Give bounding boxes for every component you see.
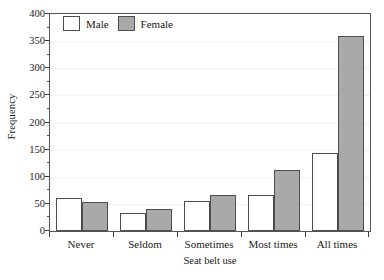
legend-label-female: Female	[141, 18, 173, 30]
bar-most-times-male	[248, 195, 274, 231]
x-axis-label-most-times: Most times	[248, 238, 297, 250]
gridline	[50, 41, 370, 42]
bar-seldom-male	[120, 213, 146, 231]
legend-swatch-female-icon	[118, 16, 135, 31]
x-axis-label-seldom: Seldom	[128, 238, 162, 250]
y-axis-title: Frequency	[0, 0, 22, 232]
x-axis-label-never: Never	[68, 238, 95, 250]
legend-swatch-male-icon	[63, 16, 80, 31]
gridline	[50, 150, 370, 151]
gridline	[50, 95, 370, 96]
bar-all-times-male	[312, 153, 338, 231]
y-axis-title-text: Frequency	[6, 93, 17, 139]
bar-never-male	[56, 198, 82, 231]
legend-label-male: Male	[86, 18, 109, 30]
x-axis-tick	[49, 232, 50, 237]
x-axis-tick	[368, 232, 369, 237]
x-axis-title: Seat belt use	[49, 255, 371, 266]
x-axis-tick	[305, 232, 306, 237]
legend-entry-male: Male	[63, 16, 109, 31]
x-axis-label-sometimes: Sometimes	[185, 238, 234, 250]
gridline	[50, 123, 370, 124]
x-axis-tick	[113, 232, 114, 237]
bar-sometimes-male	[184, 201, 210, 231]
bar-chart-figure: Frequency 050100150200250300350400 Male …	[0, 0, 384, 280]
x-axis-category-labels: NeverSeldomSometimesMost timesAll times	[49, 238, 371, 254]
x-axis-tick	[241, 232, 242, 237]
bar-sometimes-female	[210, 195, 236, 231]
bar-never-female	[82, 202, 108, 231]
bar-seldom-female	[146, 209, 172, 231]
x-axis-label-all-times: All times	[317, 238, 358, 250]
bar-most-times-female	[274, 170, 300, 231]
chart-legend: Male Female	[63, 16, 173, 31]
x-axis-tick	[177, 232, 178, 237]
legend-entry-female: Female	[118, 16, 173, 31]
bar-all-times-female	[338, 36, 364, 231]
plot-area	[49, 13, 371, 232]
gridline	[50, 68, 370, 69]
